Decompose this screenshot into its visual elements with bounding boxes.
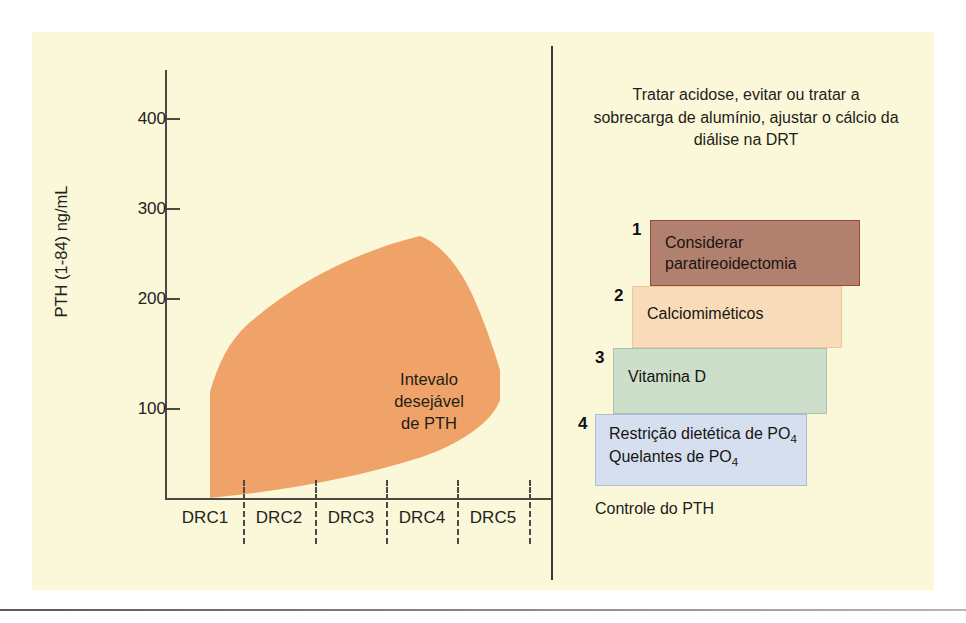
y-tick-labels: 400 300 200 100 (106, 70, 166, 500)
step-box-parathyroidectomy: Considerar paratireoidectomia (650, 220, 860, 286)
y-tick-label-400: 400 (122, 110, 166, 127)
band-annotation-line-1: Intevalo (369, 369, 489, 391)
step-number-1: 1 (632, 221, 641, 238)
step-label-2: Calciomiméticos (647, 304, 841, 325)
flow-header-text: Tratar acidose, evitar ou tratar a sobre… (591, 84, 901, 152)
y-tick-200 (167, 298, 180, 300)
x-axis-line (165, 498, 551, 500)
step-label-4-line-1-sub: 4 (790, 433, 796, 445)
x-category-drc1: DRC1 (170, 508, 240, 528)
x-separator-5-top (529, 480, 531, 500)
step-label-4-line-2-sub: 4 (732, 456, 738, 468)
step-label-4-line-2-text: Quelantes de PO (609, 448, 732, 465)
step-number-4: 4 (578, 415, 587, 432)
band-annotation: Intevalo desejável de PTH (369, 369, 489, 434)
y-tick-100 (167, 408, 180, 410)
x-separator-5-bottom (529, 502, 531, 544)
x-separator-2-top (315, 480, 317, 500)
step-label-1: Considerar paratireoidectomia (665, 233, 859, 275)
step-label-4-line-1-text: Restrição dietética de PO (609, 425, 790, 442)
y-tick-400 (167, 118, 180, 120)
y-axis-title: PTH (1-84) ng/mL (52, 127, 71, 377)
x-category-drc2: DRC2 (245, 508, 313, 528)
step-box-phosphate-control: Restrição dietética de PO4 Quelantes de … (595, 414, 807, 486)
band-annotation-line-3: de PTH (369, 413, 489, 435)
step-box-vitamin-d: Vitamina D (613, 348, 827, 414)
band-annotation-line-2: desejável (369, 391, 489, 413)
y-tick-label-100: 100 (122, 400, 166, 417)
step-label-3: Vitamina D (628, 367, 826, 388)
y-tick-300 (167, 208, 180, 210)
pth-area-chart: 400 300 200 100 PTH (1-84) ng/mL DRC1 DR… (32, 32, 551, 590)
x-separator-4-top (457, 480, 459, 500)
step-label-4-line-2: Quelantes de PO4 (609, 447, 806, 470)
pth-management-flow: Tratar acidose, evitar ou tratar a sobre… (551, 32, 934, 590)
step-box-calcimimetics: Calciomiméticos (632, 286, 842, 348)
step-label-4-line-1: Restrição dietética de PO4 (609, 424, 806, 447)
x-category-drc3: DRC3 (317, 508, 385, 528)
x-category-drc5: DRC5 (459, 508, 527, 528)
x-category-drc4: DRC4 (388, 508, 456, 528)
y-tick-label-200: 200 (122, 290, 166, 307)
x-separator-3-top (386, 480, 388, 500)
figure-root: 400 300 200 100 PTH (1-84) ng/mL DRC1 DR… (0, 0, 966, 623)
step-number-2: 2 (614, 287, 623, 304)
y-tick-label-300: 300 (122, 200, 166, 217)
bottom-rule (0, 609, 966, 611)
x-separator-1-top (243, 480, 245, 500)
flow-caption: Controle do PTH (595, 500, 825, 518)
step-number-3: 3 (595, 349, 604, 366)
